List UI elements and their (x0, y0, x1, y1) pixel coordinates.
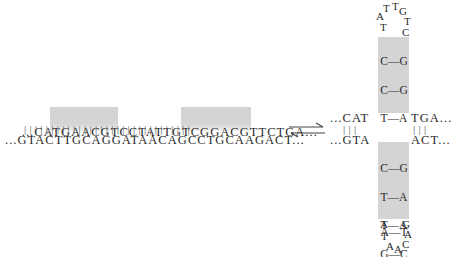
top-loop-base-1: T (380, 21, 387, 33)
bottom-stem-pair: C—G (379, 164, 409, 174)
equilibrium-arrows-icon (287, 120, 327, 140)
bottom-loop-base-7: G (402, 218, 410, 230)
bottom-stem-pair: T—A (379, 193, 409, 203)
bottom-loop-base-3: A (386, 240, 394, 252)
top-loop-base-3: T (383, 2, 390, 14)
bottom-strand: ...GTACTTGCAGGATAACAGCCTGCAAGACT... (5, 133, 305, 147)
bottom-loop-base-4: A (394, 243, 402, 255)
cruciform-left-bottom: ...GTA (330, 133, 370, 147)
top-stem-pair: T—A (379, 114, 409, 124)
top-loop-base-7: C (402, 26, 409, 38)
cruciform-right-bottom: ACT... (411, 133, 451, 147)
top-stem-pair: C—G (379, 57, 409, 67)
bottom-loop-base-1: A (380, 218, 388, 230)
top-stem-pair: C—G (379, 86, 409, 96)
top-loop-base-4: T (392, 0, 399, 12)
